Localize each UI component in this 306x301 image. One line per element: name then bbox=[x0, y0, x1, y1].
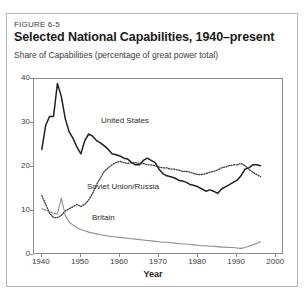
x-tick-label: 2000 bbox=[258, 257, 292, 266]
y-tick-label: 30 bbox=[8, 117, 30, 126]
y-tick-mark bbox=[30, 254, 33, 255]
y-tick-label: 20 bbox=[8, 161, 30, 170]
x-axis-label: Year bbox=[0, 269, 306, 279]
x-tick-label: 1970 bbox=[141, 257, 175, 266]
x-tick-mark bbox=[158, 254, 159, 257]
figure-container: FIGURE 6-5 Selected National Capabilitie… bbox=[0, 0, 306, 301]
plot-area bbox=[33, 78, 283, 254]
y-tick-mark bbox=[30, 122, 33, 123]
y-tick-label: 40 bbox=[8, 73, 30, 82]
y-tick-mark bbox=[30, 210, 33, 211]
y-tick-label: 10 bbox=[8, 205, 30, 214]
series-label-united-states: United States bbox=[101, 116, 149, 125]
figure-subtitle: Share of Capabilities (percentage of gre… bbox=[14, 50, 218, 60]
x-tick-label: 1940 bbox=[24, 257, 58, 266]
x-tick-label: 1960 bbox=[102, 257, 136, 266]
chart-canvas bbox=[34, 79, 284, 255]
y-tick-mark bbox=[30, 78, 33, 79]
x-tick-label: 1980 bbox=[180, 257, 214, 266]
x-tick-mark bbox=[236, 254, 237, 257]
series-line-united-states bbox=[42, 83, 261, 193]
series-group bbox=[42, 83, 261, 248]
figure-title: Selected National Capabilities, 1940–pre… bbox=[14, 30, 274, 44]
x-tick-mark bbox=[80, 254, 81, 257]
x-tick-mark bbox=[197, 254, 198, 257]
figure-number-label: FIGURE 6-5 bbox=[14, 20, 60, 29]
x-tick-mark bbox=[41, 254, 42, 257]
y-tick-mark bbox=[30, 166, 33, 167]
x-tick-mark bbox=[275, 254, 276, 257]
x-tick-label: 1950 bbox=[63, 257, 97, 266]
series-label-britain: Britain bbox=[92, 213, 115, 222]
x-tick-mark bbox=[119, 254, 120, 257]
series-label-soviet-union-russia: Soviet Union/Russia bbox=[87, 182, 159, 191]
x-tick-label: 1990 bbox=[219, 257, 253, 266]
